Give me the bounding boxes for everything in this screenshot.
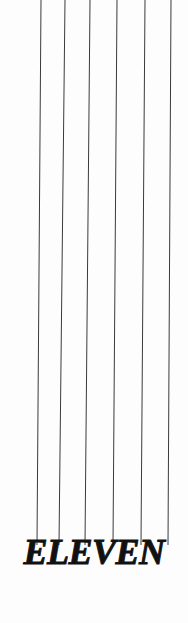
string-5 xyxy=(141,0,145,545)
string-6 xyxy=(168,0,171,545)
string-2 xyxy=(59,0,65,545)
string-3 xyxy=(85,0,90,545)
string-4 xyxy=(113,0,117,545)
poster-canvas: ELEVEN xyxy=(0,0,188,623)
wordmark-eleven: ELEVEN xyxy=(0,530,188,574)
string-lines xyxy=(37,0,171,545)
string-1 xyxy=(37,0,41,545)
